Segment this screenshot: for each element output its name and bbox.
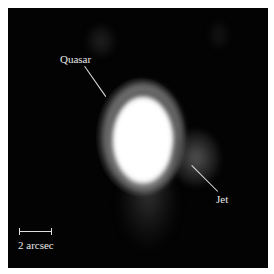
scale-bar-label: 2 arcsec (18, 240, 54, 251)
scale-bar-left-tick (19, 228, 20, 235)
quasar-core (112, 96, 174, 184)
jet-label: Jet (216, 194, 228, 205)
quasar-label: Quasar (60, 54, 91, 65)
faint-source-top-right (208, 20, 230, 50)
jet-blob (172, 130, 220, 186)
scale-bar (19, 228, 52, 235)
scale-bar-right-tick (51, 228, 52, 235)
scale-bar-line (19, 231, 52, 232)
